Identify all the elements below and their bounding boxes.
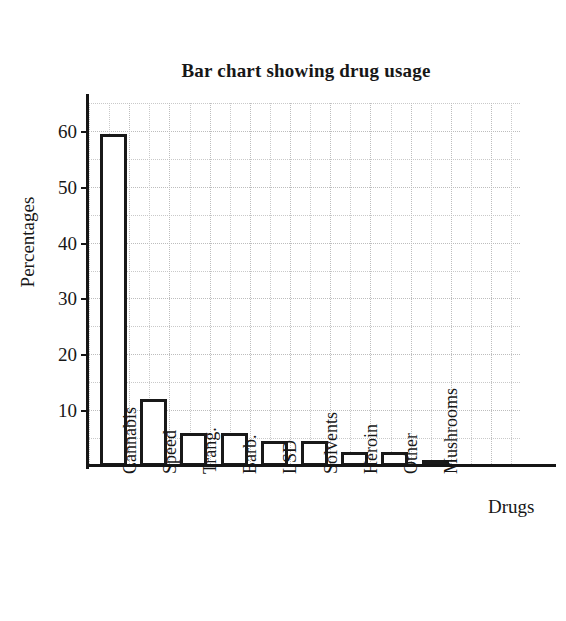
bar-chart: Bar chart showing drug usage Percentages… (0, 0, 566, 621)
gridline-vertical (350, 103, 351, 466)
y-tick-label: 60 (58, 121, 77, 140)
gridline-vertical (471, 103, 472, 466)
x-tick-label: LSD (281, 440, 299, 474)
x-tick-label: Other (402, 433, 420, 474)
y-tick-label: 20 (58, 345, 77, 364)
y-tick-label: 50 (58, 177, 77, 196)
gridline-vertical (230, 103, 231, 466)
x-tick-label: Heroin (362, 424, 380, 474)
y-axis-title: Percentages (17, 152, 39, 332)
gridline-horizontal (89, 159, 520, 160)
x-tick-label: Cannabis (121, 407, 139, 474)
x-tick-label: Solvents (322, 412, 340, 474)
gridline-horizontal (89, 103, 520, 104)
gridline-vertical (190, 103, 191, 466)
gridline-horizontal (89, 243, 520, 244)
gridline-vertical (210, 103, 211, 466)
gridline-vertical (290, 103, 291, 466)
gridline-horizontal (89, 354, 520, 355)
gridline-horizontal (89, 131, 520, 132)
gridline-horizontal (89, 271, 520, 272)
gridline-vertical (270, 103, 271, 466)
y-axis-line (86, 94, 89, 469)
gridline-horizontal (89, 382, 520, 383)
gridline-vertical (491, 103, 492, 466)
gridline-vertical (89, 103, 90, 466)
gridline-horizontal (89, 298, 520, 299)
gridline-vertical (431, 103, 432, 466)
y-tick-label: 30 (58, 289, 77, 308)
gridline-vertical (511, 103, 512, 466)
y-tick-label: 40 (58, 233, 77, 252)
chart-title: Bar chart showing drug usage (0, 60, 566, 82)
x-axis-title: Drugs (488, 496, 534, 518)
gridline-vertical (310, 103, 311, 466)
gridline-vertical (370, 103, 371, 466)
gridline-horizontal (89, 326, 520, 327)
gridline-vertical (250, 103, 251, 466)
gridline-vertical (391, 103, 392, 466)
gridline-horizontal (89, 215, 520, 216)
gridline-vertical (411, 103, 412, 466)
y-tick-label: 10 (58, 401, 77, 420)
x-tick-label: Mushrooms (442, 388, 460, 474)
x-tick-label: Trang. (201, 427, 219, 474)
gridline-horizontal (89, 187, 520, 188)
x-tick-label: Barb. (241, 435, 259, 475)
gridline-vertical (169, 103, 170, 466)
x-tick-label: Speed (161, 430, 179, 474)
